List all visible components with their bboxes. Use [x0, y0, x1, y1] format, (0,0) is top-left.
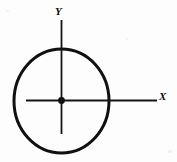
y-axis-label: Y — [55, 6, 62, 17]
x-axis-label: X — [159, 91, 166, 102]
figure-canvas: Y X — [0, 0, 177, 162]
coordinate-circle-diagram — [0, 0, 177, 162]
origin-dot — [58, 97, 65, 104]
